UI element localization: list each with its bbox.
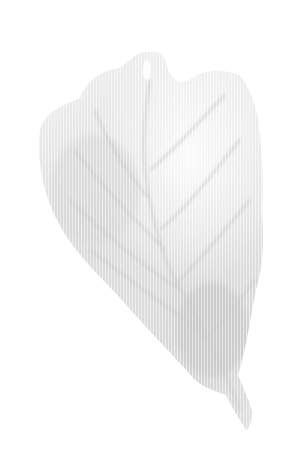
halftone-texture bbox=[0, 0, 308, 450]
leaf-image bbox=[0, 0, 308, 450]
leaf-illustration bbox=[0, 0, 308, 450]
